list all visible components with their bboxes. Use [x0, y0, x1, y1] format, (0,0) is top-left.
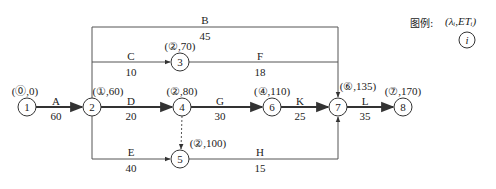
activity-name-H: H [256, 146, 264, 158]
activity-duration-A: 60 [51, 110, 62, 122]
activity-duration-D: 20 [126, 110, 137, 122]
node-label-6: (④,110) [254, 85, 290, 97]
activity-name-K: K [296, 95, 304, 107]
activity-name-L: L [362, 95, 369, 107]
activity-name-B: B [201, 14, 208, 26]
activity-duration-G: 30 [215, 110, 226, 122]
node-number-4: 4 [173, 98, 191, 116]
activity-duration-B: 45 [200, 30, 211, 42]
node-label-3: (②,70) [164, 40, 195, 52]
node-label-5: (②,100) [190, 137, 227, 149]
legend-title: 图例: [410, 15, 433, 30]
activity-name-E: E [128, 146, 135, 158]
activity-duration-L: 35 [360, 110, 371, 122]
node-number-2: 2 [83, 98, 101, 116]
node-label-1: (⓪,0) [12, 85, 39, 97]
activity-name-A: A [52, 95, 60, 107]
node-number-3: 3 [171, 53, 189, 71]
node-label-4: (②,80) [166, 85, 197, 97]
node-number-5: 5 [171, 150, 189, 168]
node-label-8: (⑦,170) [385, 85, 422, 97]
node-number-6: 6 [263, 98, 281, 116]
activity-duration-K: 25 [295, 110, 306, 122]
legend-node-symbol: i [458, 31, 476, 49]
activity-duration-H: 15 [255, 162, 266, 174]
activity-duration-F: 18 [255, 66, 266, 78]
legend-formula: (λᵢ,ETᵢ) [445, 15, 476, 27]
activity-name-F: F [257, 50, 263, 62]
activity-name-D: D [127, 95, 135, 107]
node-label-2: (①,60) [92, 85, 123, 97]
activity-duration-E: 40 [126, 162, 137, 174]
node-number-1: 1 [18, 98, 36, 116]
dummy-arrow-4-5 [181, 116, 182, 149]
activity-name-C: C [127, 50, 134, 62]
node-number-8: 8 [394, 98, 412, 116]
node-number-7: 7 [329, 98, 347, 116]
activity-name-G: G [216, 95, 224, 107]
activity-duration-C: 10 [126, 66, 137, 78]
node-label-7: (⑥,135) [340, 80, 377, 92]
